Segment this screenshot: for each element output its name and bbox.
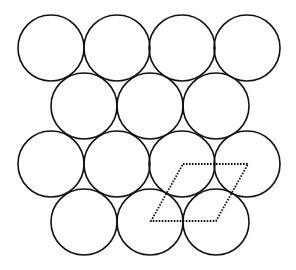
packing-circle: [117, 189, 183, 255]
packing-circle: [51, 73, 117, 139]
packing-circle: [84, 15, 150, 81]
packing-circle: [117, 73, 183, 139]
packing-circle: [149, 15, 215, 81]
packing-circle: [18, 131, 84, 197]
packing-circle: [183, 73, 249, 139]
packing-circle: [51, 189, 117, 255]
packing-circle: [183, 189, 249, 255]
circle-group: [18, 15, 280, 255]
packing-circle: [84, 131, 150, 197]
packing-circle: [214, 15, 280, 81]
circle-packing-diagram: [0, 0, 296, 270]
packing-circle: [18, 15, 84, 81]
